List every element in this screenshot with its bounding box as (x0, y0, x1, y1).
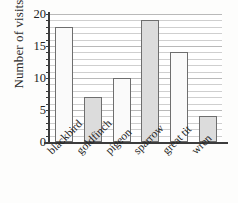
y-tick-label: 20 (26, 8, 46, 20)
bar-chart: Number of visits 05101520 blackbirdgoldf… (0, 0, 238, 203)
y-tick-label: 0 (26, 136, 46, 148)
y-axis-tick-labels: 05101520 (26, 8, 46, 148)
x-axis-tick-labels: blackbirdgoldfinchpigeonsparrowgreat tit… (50, 144, 238, 203)
y-tick-label: 15 (26, 40, 46, 52)
y-axis-title: Number of visits (11, 0, 27, 109)
y-tick-label: 10 (26, 72, 46, 84)
y-tick-label: 5 (26, 104, 46, 116)
